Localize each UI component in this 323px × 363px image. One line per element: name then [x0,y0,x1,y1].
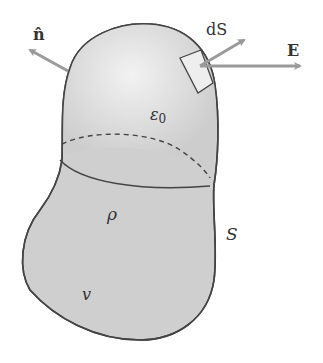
gauss-diagram: n̂ dS E ε0 ρ S v [0,0,323,363]
ds-arrow [200,40,244,66]
volume-label: v [82,285,91,304]
e-field-label: E [287,41,299,60]
upper-highlight [63,24,217,170]
surface-label: S [226,224,238,244]
rho-label: ρ [106,204,117,224]
normal-arrow [30,50,68,71]
ds-label: dS [206,20,227,39]
normal-label: n̂ [33,25,45,44]
